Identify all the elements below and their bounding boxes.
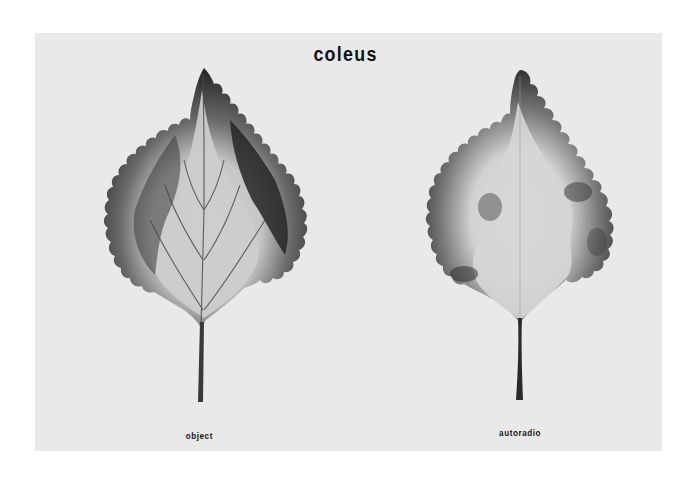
object-label: object [186, 431, 213, 441]
autoradio-label: autoradio [499, 428, 541, 438]
autoradio-leaf-image [402, 62, 637, 412]
object-leaf-image [80, 60, 315, 410]
